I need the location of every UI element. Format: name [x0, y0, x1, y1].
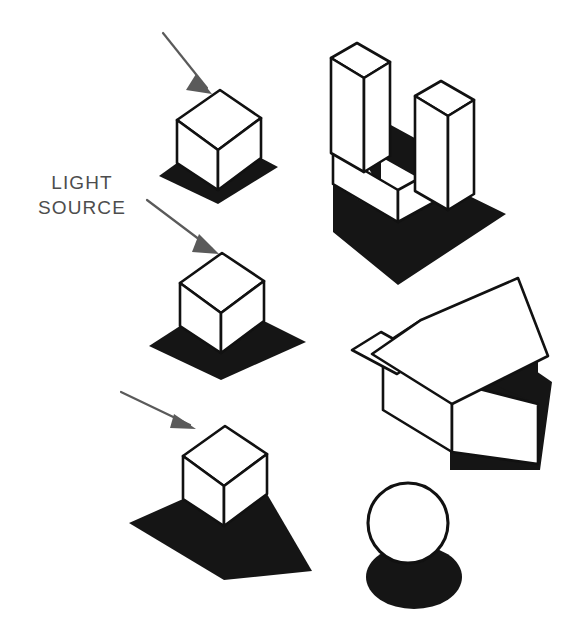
shadow-study-figure: LIGHT SOURCE — [0, 0, 579, 640]
light-source-label-line1: LIGHT — [51, 172, 112, 193]
light-source-label: LIGHT SOURCE — [38, 172, 126, 218]
u-block-left-prong-side — [364, 62, 390, 172]
gabled-house — [352, 278, 552, 470]
sphere-with-elliptical-shadow — [366, 483, 462, 609]
u-block-right-prong-side — [448, 100, 474, 210]
cube-short-shadow — [159, 90, 278, 204]
sphere-outline — [368, 483, 448, 563]
u-shaped-block — [331, 43, 506, 285]
light-ray-shallow — [121, 392, 196, 429]
light-ray-medium — [147, 200, 219, 254]
u-block-left-prong-front — [331, 58, 364, 172]
u-block-right-prong-front — [415, 96, 448, 210]
light-source-label-line2: SOURCE — [38, 197, 126, 218]
light-ray-steep — [163, 33, 212, 94]
cube-medium-shadow — [149, 253, 306, 380]
cube-long-shadow — [129, 426, 312, 580]
arrow-head-icon — [170, 414, 196, 429]
